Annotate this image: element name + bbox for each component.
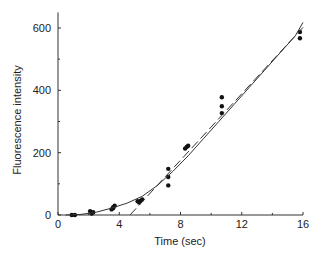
axes: 04812160200400600 — [33, 12, 309, 230]
data-point — [220, 95, 224, 99]
x-tick-label: 12 — [236, 218, 248, 230]
x-tick-label: 4 — [116, 218, 122, 230]
data-point — [166, 167, 170, 171]
series-layer — [66, 22, 303, 217]
y-axis-label: Fluorescence intensity — [11, 65, 23, 175]
chart-svg: 04812160200400600 Time (sec) Fluorescenc… — [0, 0, 325, 255]
x-tick-label: 8 — [177, 218, 183, 230]
x-tick-label: 0 — [55, 218, 61, 230]
x-tick-label: 16 — [297, 218, 309, 230]
data-point — [220, 104, 224, 108]
y-tick-label: 400 — [33, 84, 51, 96]
fit-curve — [66, 22, 303, 215]
y-tick-label: 200 — [33, 147, 51, 159]
fluorescence-chart: 04812160200400600 Time (sec) Fluorescenc… — [0, 0, 325, 255]
y-tick-label: 600 — [33, 22, 51, 34]
data-point — [298, 36, 302, 40]
data-point — [135, 199, 139, 203]
y-tick-label: 0 — [45, 209, 51, 221]
x-axis-label: Time (sec) — [154, 235, 206, 247]
data-point — [166, 183, 170, 187]
data-point — [186, 144, 190, 148]
